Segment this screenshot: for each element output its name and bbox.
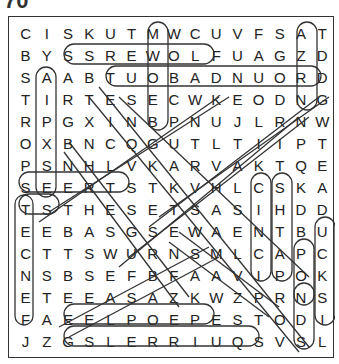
grid-cell[interactable]: P <box>269 265 290 287</box>
grid-cell[interactable]: N <box>227 67 248 89</box>
grid-cell[interactable]: V <box>206 155 227 177</box>
grid-cell[interactable]: U <box>206 331 227 353</box>
grid-cell[interactable]: U <box>100 23 121 45</box>
grid-cell[interactable]: X <box>79 111 100 133</box>
grid-cell[interactable]: L <box>185 45 206 67</box>
grid-cell[interactable]: O <box>15 133 36 155</box>
grid-cell[interactable]: B <box>79 67 100 89</box>
grid-cell[interactable]: H <box>79 155 100 177</box>
grid-cell[interactable]: D <box>290 309 311 331</box>
grid-cell[interactable]: D <box>312 199 333 221</box>
grid-cell[interactable]: E <box>142 199 163 221</box>
grid-cell[interactable]: R <box>100 45 121 67</box>
grid-cell[interactable]: S <box>79 243 100 265</box>
grid-cell[interactable]: S <box>100 221 121 243</box>
grid-cell[interactable]: C <box>100 133 121 155</box>
grid-cell[interactable]: D <box>206 67 227 89</box>
grid-cell[interactable]: P <box>121 309 142 331</box>
grid-cell[interactable]: A <box>206 199 227 221</box>
grid-cell[interactable]: F <box>15 309 36 331</box>
grid-cell[interactable]: T <box>79 89 100 111</box>
grid-cell[interactable]: S <box>142 221 163 243</box>
grid-cell[interactable]: W <box>142 45 163 67</box>
grid-cell[interactable]: T <box>312 133 333 155</box>
grid-cell[interactable]: R <box>79 177 100 199</box>
grid-cell[interactable]: V <box>227 265 248 287</box>
grid-cell[interactable]: B <box>15 45 36 67</box>
grid-cell[interactable]: A <box>227 155 248 177</box>
grid-cell[interactable]: E <box>312 155 333 177</box>
grid-cell[interactable]: N <box>290 89 311 111</box>
grid-cell[interactable]: W <box>206 287 227 309</box>
grid-cell[interactable]: G <box>57 331 78 353</box>
grid-cell[interactable]: R <box>269 111 290 133</box>
grid-cell[interactable]: L <box>100 331 121 353</box>
grid-cell[interactable]: S <box>57 23 78 45</box>
grid-cell[interactable]: J <box>15 331 36 353</box>
grid-cell[interactable]: E <box>57 177 78 199</box>
grid-cell[interactable]: A <box>206 221 227 243</box>
grid-cell[interactable]: B <box>142 111 163 133</box>
grid-cell[interactable]: I <box>185 331 206 353</box>
grid-cell[interactable]: O <box>142 67 163 89</box>
grid-cell[interactable]: A <box>57 67 78 89</box>
grid-cell[interactable]: W <box>312 111 333 133</box>
grid-cell[interactable]: V <box>185 177 206 199</box>
grid-cell[interactable]: G <box>57 111 78 133</box>
grid-cell[interactable]: B <box>290 221 311 243</box>
grid-cell[interactable]: O <box>142 309 163 331</box>
grid-cell[interactable]: Q <box>227 331 248 353</box>
grid-cell[interactable]: H <box>269 199 290 221</box>
grid-cell[interactable]: K <box>290 177 311 199</box>
grid-cell[interactable]: E <box>100 89 121 111</box>
grid-cell[interactable]: R <box>163 331 184 353</box>
grid-cell[interactable]: S <box>248 331 269 353</box>
grid-cell[interactable]: A <box>290 23 311 45</box>
grid-cell[interactable]: S <box>312 287 333 309</box>
grid-cell[interactable]: K <box>312 265 333 287</box>
grid-cell[interactable]: F <box>248 23 269 45</box>
grid-cell[interactable]: N <box>185 111 206 133</box>
grid-cell[interactable]: R <box>142 331 163 353</box>
grid-cell[interactable]: P <box>163 111 184 133</box>
grid-cell[interactable]: A <box>185 67 206 89</box>
grid-cell[interactable]: E <box>163 221 184 243</box>
grid-cell[interactable]: P <box>248 287 269 309</box>
grid-cell[interactable]: S <box>79 45 100 67</box>
grid-cell[interactable]: D <box>290 199 311 221</box>
grid-cell[interactable]: T <box>15 199 36 221</box>
grid-cell[interactable]: F <box>121 265 142 287</box>
grid-cell[interactable]: U <box>121 67 142 89</box>
grid-cell[interactable]: A <box>269 243 290 265</box>
grid-cell[interactable]: E <box>15 287 36 309</box>
grid-cell[interactable]: N <box>79 133 100 155</box>
grid-cell[interactable]: K <box>206 89 227 111</box>
grid-cell[interactable]: V <box>227 23 248 45</box>
grid-cell[interactable]: S <box>36 265 57 287</box>
grid-cell[interactable]: R <box>57 89 78 111</box>
grid-cell[interactable]: C <box>185 23 206 45</box>
grid-cell[interactable]: K <box>79 23 100 45</box>
grid-cell[interactable]: T <box>312 23 333 45</box>
grid-cell[interactable]: I <box>269 133 290 155</box>
grid-cell[interactable]: A <box>142 287 163 309</box>
grid-cell[interactable]: S <box>15 67 36 89</box>
grid-cell[interactable]: O <box>269 67 290 89</box>
grid-cell[interactable]: E <box>100 265 121 287</box>
grid-cell[interactable]: E <box>15 221 36 243</box>
grid-cell[interactable]: U <box>121 243 142 265</box>
grid-cell[interactable]: A <box>185 265 206 287</box>
grid-cell[interactable]: W <box>163 23 184 45</box>
grid-cell[interactable]: V <box>121 155 142 177</box>
grid-cell[interactable]: U <box>163 133 184 155</box>
grid-cell[interactable]: S <box>79 331 100 353</box>
grid-cell[interactable]: Q <box>121 133 142 155</box>
grid-cell[interactable]: T <box>269 221 290 243</box>
grid-cell[interactable]: R <box>142 243 163 265</box>
grid-cell[interactable]: C <box>312 243 333 265</box>
grid-cell[interactable]: I <box>36 23 57 45</box>
grid-cell[interactable]: E <box>163 309 184 331</box>
grid-cell[interactable]: T <box>57 199 78 221</box>
grid-cell[interactable]: S <box>227 199 248 221</box>
grid-cell[interactable]: Z <box>290 45 311 67</box>
